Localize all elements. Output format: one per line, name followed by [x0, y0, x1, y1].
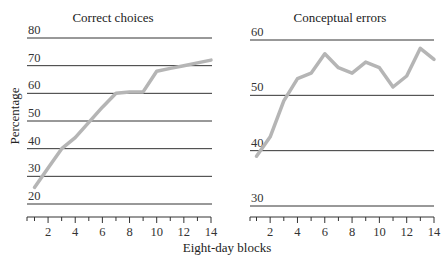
x-tick-label: 10 [150, 225, 163, 239]
x-tick-label: 2 [267, 225, 273, 239]
x-tick-label: 10 [373, 225, 386, 239]
x-axis-title: Eight-day blocks [183, 240, 271, 255]
chart-canvas: Percentage Eight-day blocks Correct choi… [0, 0, 447, 264]
x-tick-label: 14 [428, 225, 441, 239]
y-axis-title: Percentage [7, 87, 22, 144]
x-tick-label: 8 [349, 225, 355, 239]
y-tick-label: 70 [28, 51, 41, 65]
chart-title: Correct choices [72, 10, 153, 25]
data-line [35, 60, 212, 187]
y-tick-label: 40 [28, 134, 41, 148]
data-line [257, 48, 435, 156]
y-tick-label: 20 [28, 189, 41, 203]
y-tick-label: 50 [251, 80, 264, 94]
x-tick-label: 14 [205, 225, 218, 239]
y-tick-label: 50 [28, 106, 41, 120]
y-tick-label: 60 [28, 78, 41, 92]
x-tick-label: 8 [126, 225, 132, 239]
x-tick-label: 2 [45, 225, 51, 239]
x-tick-label: 12 [178, 225, 191, 239]
x-tick-label: 6 [322, 225, 328, 239]
x-tick-label: 4 [72, 225, 79, 239]
x-tick-label: 4 [294, 225, 301, 239]
x-tick-label: 6 [99, 225, 105, 239]
x-tick-label: 12 [400, 225, 413, 239]
panel-correct-choices: Correct choices203040506070802468101214 [27, 10, 218, 239]
y-tick-label: 80 [28, 23, 41, 37]
y-tick-label: 60 [251, 25, 264, 39]
y-tick-label: 30 [28, 161, 41, 175]
chart-title: Conceptual errors [294, 10, 387, 25]
y-tick-label: 30 [251, 191, 264, 205]
panel-conceptual-errors: Conceptual errors304050602468101214 [250, 10, 441, 239]
